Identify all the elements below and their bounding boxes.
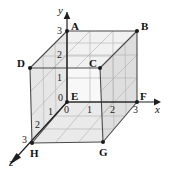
x-tick-1: 1 [87, 105, 92, 115]
z-tick-1: 1 [48, 107, 53, 117]
vertex-label-G: G [99, 147, 108, 158]
y-tick-0: 0 [58, 93, 63, 103]
y-axis-label: y [58, 5, 63, 16]
y-tick-3: 3 [57, 26, 62, 36]
z-tick-3: 3 [22, 135, 27, 145]
x-tick-2: 2 [110, 105, 115, 115]
y-axis-arrowhead [64, 12, 71, 19]
z-tick-2: 2 [35, 120, 40, 130]
dot-A [65, 29, 69, 33]
x-tick-3: 3 [133, 105, 138, 115]
vertex-label-C: C [89, 58, 97, 69]
x-tick-0: 0 [64, 105, 69, 115]
vertex-label-E: E [71, 91, 78, 102]
z-axis-label: z [9, 157, 13, 168]
dot-C [98, 66, 102, 70]
dot-B [135, 29, 139, 33]
x-axis-label: x [155, 104, 160, 115]
vertex-label-B: B [141, 21, 148, 32]
y-tick-2: 2 [57, 50, 62, 60]
vertex-label-A: A [71, 21, 79, 32]
dot-D [28, 66, 32, 70]
vertex-label-H: H [30, 148, 39, 159]
vertex-label-F: F [140, 91, 147, 102]
y-tick-1: 1 [57, 73, 62, 83]
dot-G [101, 140, 105, 144]
vertex-label-D: D [17, 58, 25, 69]
dot-H [30, 141, 34, 145]
cube-coordinate-figure: A B C D E F G H y x z 3 2 1 0 0 1 2 3 1 … [0, 0, 169, 174]
